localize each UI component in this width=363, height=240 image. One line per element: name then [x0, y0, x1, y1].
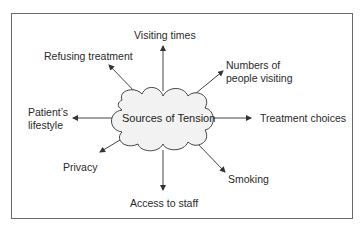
node-visiting-times: Visiting times — [134, 29, 196, 41]
center-topic: Sources of Tension — [122, 112, 215, 124]
node-privacy: Privacy — [63, 161, 97, 173]
node-numbers-line2: people visiting — [226, 72, 293, 84]
node-treatment-choices: Treatment choices — [260, 112, 346, 124]
node-numbers-line1: Numbers of — [226, 59, 280, 71]
arrow-smoking — [197, 143, 225, 172]
node-patients-line2: lifestyle — [28, 119, 63, 131]
node-refusing-treatment: Refusing treatment — [44, 50, 133, 62]
node-patients-line1: Patient’s — [28, 106, 68, 118]
node-access-to-staff: Access to staff — [130, 197, 198, 209]
node-smoking: Smoking — [228, 173, 269, 185]
